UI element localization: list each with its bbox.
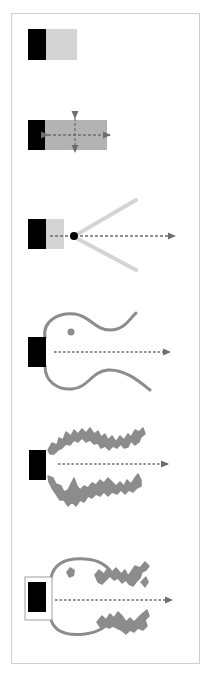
panel-6 xyxy=(25,559,172,635)
upper-diverging-line xyxy=(76,200,136,235)
light-block xyxy=(46,29,77,60)
source-block xyxy=(29,450,46,480)
upper-rough-leaf xyxy=(140,576,149,588)
lower-diverging-line xyxy=(76,238,136,270)
upper-rough-wall xyxy=(48,428,145,454)
diagram-canvas xyxy=(0,0,210,677)
particle-dot xyxy=(68,329,75,336)
upper-rough-blob xyxy=(66,567,75,578)
focal-point xyxy=(70,232,78,240)
panel-2 xyxy=(28,118,110,152)
panel-1 xyxy=(28,29,77,60)
source-block xyxy=(28,582,46,612)
panel-4 xyxy=(28,313,170,390)
lower-rough-fragment xyxy=(97,610,149,634)
upper-curved-wall xyxy=(45,313,136,338)
light-block xyxy=(46,219,64,249)
lower-rough-wall xyxy=(48,474,141,506)
panel-5 xyxy=(29,428,168,506)
lower-curved-wall xyxy=(45,366,150,390)
source-block xyxy=(28,337,46,367)
source-block xyxy=(28,120,45,150)
source-block xyxy=(28,29,46,60)
panel-3 xyxy=(28,200,175,270)
source-block xyxy=(28,219,46,249)
